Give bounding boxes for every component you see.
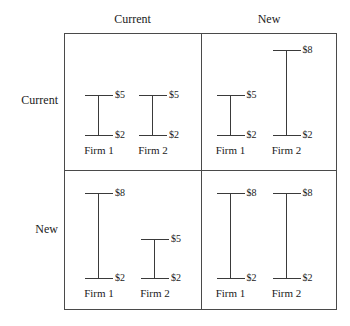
bar-high-cap [141, 239, 169, 240]
bar-stem [286, 193, 287, 278]
bar-high-value: $5 [115, 90, 125, 100]
bar-high-cap [85, 193, 113, 194]
bar-high-value: $5 [171, 234, 181, 244]
bar-high-value: $5 [169, 90, 179, 100]
bar-stem [286, 50, 287, 135]
cell-current-current: $5 $2 Firm 1 $5 $2 Firm 2 [65, 34, 201, 172]
firm-label-2: Firm 2 [259, 287, 315, 299]
bar-low-cap [217, 278, 245, 279]
bar-low-value: $2 [171, 273, 181, 283]
bar-low-value: $2 [303, 273, 313, 283]
bar-high-value: $8 [303, 45, 313, 55]
bar-low-value: $2 [115, 273, 125, 283]
bar-low-value: $2 [247, 273, 257, 283]
bar-low-cap [85, 135, 113, 136]
bar-low-cap [273, 135, 301, 136]
bar-high-cap [85, 95, 113, 96]
payoff-matrix-figure: Current New Current New $5 $2 Firm 1 $5 … [0, 0, 350, 326]
bar-high-value: $5 [247, 90, 257, 100]
firm-label-2: Firm 2 [125, 144, 181, 156]
firm-label-1: Firm 1 [203, 144, 259, 156]
column-header-current: Current [64, 12, 201, 26]
cell-current-new: $5 $2 Firm 1 $8 $2 Firm 2 [201, 34, 337, 172]
row-header-current: Current [0, 93, 58, 107]
column-header-new: New [201, 12, 337, 26]
bar-stem [230, 193, 231, 278]
bar-low-cap [139, 135, 167, 136]
firm-label-1: Firm 1 [71, 287, 127, 299]
bar-low-cap [85, 278, 113, 279]
firm-label-2: Firm 2 [259, 144, 315, 156]
bar-low-value: $2 [169, 130, 179, 140]
bar-low-cap [217, 135, 245, 136]
bar-high-value: $8 [303, 188, 313, 198]
row-header-new: New [0, 222, 58, 236]
bar-low-cap [141, 278, 169, 279]
bar-high-value: $8 [115, 188, 125, 198]
cell-new-new: $8 $2 Firm 1 $8 $2 Firm 2 [201, 172, 337, 310]
bar-high-cap [273, 193, 301, 194]
bar-high-cap [217, 95, 245, 96]
bar-high-cap [139, 95, 167, 96]
bar-low-value: $2 [115, 130, 125, 140]
bar-low-value: $2 [247, 130, 257, 140]
firm-label-1: Firm 1 [71, 144, 127, 156]
cell-new-current: $8 $2 Firm 1 $5 $2 Firm 2 [65, 172, 201, 310]
bar-stem [98, 95, 99, 135]
bar-low-value: $2 [303, 130, 313, 140]
bar-stem [154, 239, 155, 278]
matrix-grid: $5 $2 Firm 1 $5 $2 Firm 2 $5 $2 Fir [64, 33, 337, 310]
firm-label-1: Firm 1 [203, 287, 259, 299]
bar-high-cap [217, 193, 245, 194]
bar-stem [230, 95, 231, 135]
bar-high-cap [273, 50, 301, 51]
bar-stem [152, 95, 153, 135]
bar-low-cap [273, 278, 301, 279]
bar-stem [98, 193, 99, 278]
bar-high-value: $8 [247, 188, 257, 198]
firm-label-2: Firm 2 [127, 287, 183, 299]
